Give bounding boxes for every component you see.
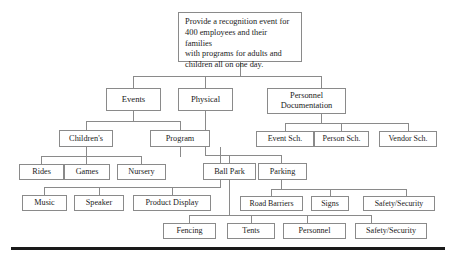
connector-parking-down — [281, 180, 282, 189]
node-games: Games — [64, 164, 110, 180]
node-parking: Parking — [258, 163, 307, 180]
node-safety-security-parking: Safety/Security — [363, 196, 435, 211]
node-event-sch: Event Sch. — [256, 131, 314, 147]
node-product-display: Product Display — [133, 195, 211, 211]
node-ball-park: Ball Park — [203, 163, 256, 180]
node-childrens: Children's — [59, 130, 113, 147]
connector-events-down — [133, 111, 134, 121]
node-parking-label: Parking — [270, 167, 295, 177]
node-rides: Rides — [19, 164, 64, 180]
node-music-label: Music — [34, 198, 54, 208]
wbs-diagram-canvas: Provide a recognition event for 400 empl… — [0, 0, 458, 261]
connector-to-road-barriers — [271, 189, 272, 196]
connector-to-personnel-documentation — [321, 76, 322, 88]
node-road-barriers-label: Road Barriers — [249, 199, 293, 208]
node-safety-security-ballpark-label: Safety/Security — [366, 226, 416, 236]
node-tents-label: Tents — [242, 226, 259, 236]
node-safety-security-ballpark: Safety/Security — [355, 223, 427, 239]
connector-to-vendor-sch — [408, 123, 409, 131]
node-road-barriers: Road Barriers — [240, 196, 303, 211]
node-physical: Physical — [178, 88, 233, 111]
connector-to-nursery — [141, 156, 142, 164]
connector-to-childrens — [86, 121, 87, 130]
node-vendor-sch: Vendor Sch. — [379, 131, 437, 147]
connector-ball-park-bus — [189, 215, 371, 216]
connector-program-down — [180, 147, 181, 157]
node-product-display-label: Product Display — [146, 198, 199, 208]
node-signs: Signs — [311, 196, 349, 211]
node-nursery-label: Nursery — [128, 167, 154, 177]
connector-to-person-sch — [341, 123, 342, 131]
connector-to-rides — [41, 156, 42, 164]
connector-to-signs — [330, 189, 331, 196]
node-personnel-documentation-label: Personnel Documentation — [281, 91, 333, 111]
node-music: Music — [22, 195, 67, 211]
node-personnel-label: Personnel — [299, 226, 331, 236]
node-tents: Tents — [227, 223, 275, 239]
node-childrens-label: Children's — [69, 134, 103, 144]
connector-to-personnel — [307, 215, 308, 223]
node-fencing: Fencing — [163, 223, 216, 239]
connector-program-bus — [44, 187, 221, 188]
node-events-label: Events — [122, 94, 145, 104]
node-person-sch: Person Sch. — [314, 131, 369, 147]
node-personnel: Personnel — [283, 223, 346, 239]
connector-to-physical — [205, 76, 206, 88]
node-rides-label: Rides — [32, 167, 51, 177]
node-fencing-label: Fencing — [176, 226, 202, 236]
node-person-sch-label: Person Sch. — [323, 134, 361, 143]
connector-to-event-sch — [285, 123, 286, 131]
connector-to-safety-security-ballpark — [371, 215, 372, 223]
node-events: Events — [106, 88, 161, 111]
node-personnel-documentation: Personnel Documentation — [267, 88, 346, 114]
connector-physical-bus — [205, 155, 281, 156]
connector-to-music — [44, 187, 45, 195]
connector-ball-park-down — [229, 180, 230, 215]
node-event-sch-label: Event Sch. — [268, 134, 303, 143]
node-ball-park-label: Ball Park — [214, 167, 245, 177]
node-games-label: Games — [76, 167, 99, 177]
node-safety-security-parking-label: Safety/Security — [375, 199, 424, 208]
node-nursery: Nursery — [117, 164, 166, 180]
node-program-label: Program — [166, 134, 195, 144]
connector-schedules-bus — [285, 123, 408, 124]
connector-to-safety-security-parking — [406, 189, 407, 196]
connector-to-fencing — [189, 215, 190, 223]
connector-parking-bus — [271, 189, 406, 190]
connector-to-speaker — [99, 187, 100, 195]
node-vendor-sch-label: Vendor Sch. — [388, 134, 427, 143]
connector-to-games — [86, 156, 87, 164]
connector-to-product-display — [172, 187, 173, 195]
connector-childrens-bus — [41, 156, 141, 157]
node-program: Program — [150, 130, 210, 147]
connector-to-program — [180, 121, 181, 130]
node-root: Provide a recognition event for 400 empl… — [178, 12, 302, 62]
connector-personnel-doc-down — [321, 114, 322, 123]
node-root-label: Provide a recognition event for 400 empl… — [185, 17, 296, 71]
connector-events-bus — [86, 121, 180, 122]
connector-level2-bus — [133, 76, 321, 77]
connector-to-tents — [251, 215, 252, 223]
node-speaker: Speaker — [74, 195, 124, 211]
bottom-divider-rule — [11, 247, 445, 250]
node-signs-label: Signs — [321, 199, 339, 208]
node-speaker-label: Speaker — [86, 198, 112, 208]
connector-childrens-down — [86, 147, 87, 156]
connector-to-events — [133, 76, 134, 88]
connector-to-ball-park — [229, 155, 230, 163]
connector-to-parking — [281, 155, 282, 163]
node-physical-label: Physical — [191, 94, 220, 104]
